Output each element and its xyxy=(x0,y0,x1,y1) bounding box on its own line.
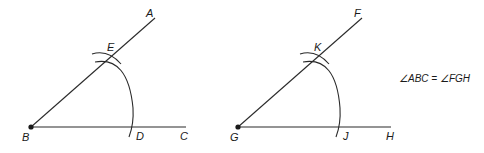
label-h: H xyxy=(386,130,394,142)
label-k: K xyxy=(314,41,322,53)
label-e: E xyxy=(107,41,115,53)
left-angle-abc: B A E D C xyxy=(22,7,188,143)
label-c: C xyxy=(180,130,188,142)
angle-copy-construction-diagram: B A E D C G F K J H ∠ABC = ∠FGH xyxy=(0,0,484,153)
label-j: J xyxy=(342,130,349,142)
vertex-point-b xyxy=(28,124,33,129)
label-d: D xyxy=(136,130,144,142)
label-b: B xyxy=(22,131,29,143)
label-g: G xyxy=(230,131,239,143)
ray-gf xyxy=(238,18,362,127)
label-a: A xyxy=(145,7,153,19)
right-angle-fgh: G F K J H xyxy=(230,7,394,143)
ray-ba xyxy=(31,18,155,127)
angle-equality-statement: ∠ABC = ∠FGH xyxy=(399,73,471,84)
arc-ed xyxy=(95,61,133,137)
label-f: F xyxy=(354,7,362,19)
vertex-point-g xyxy=(235,124,240,129)
arc-kj xyxy=(303,61,340,137)
